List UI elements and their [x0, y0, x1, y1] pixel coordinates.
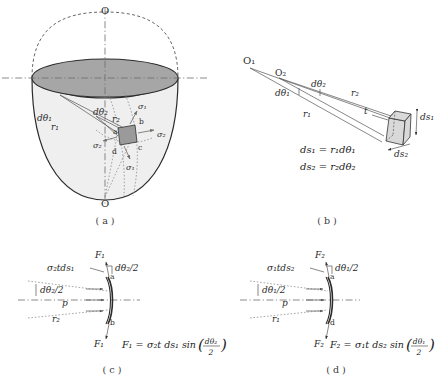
d-label-F-bottom: F₂ [313, 339, 324, 349]
d-label-corner-a: a [330, 272, 335, 281]
label-sigma1-lower: σ₁ [126, 163, 135, 172]
block-front-face [386, 118, 405, 145]
c-force-arrow-bottom [106, 324, 109, 339]
c-label-F-bottom: F₁ [93, 339, 104, 349]
axis-bottom-label: O [101, 198, 109, 209]
d-label-corner-d: d [330, 318, 335, 327]
axis-top-label: O [101, 5, 109, 16]
label-corner-a: a [113, 127, 118, 136]
label-r1: r₁ [51, 122, 59, 132]
c-equation-paren-close: ) [220, 336, 227, 354]
ray-O2-top [279, 78, 391, 116]
c-label-stress-force: σ₂tds₁ [47, 263, 74, 273]
label-corner-b: b [139, 117, 144, 126]
ds1-dimension-line [416, 112, 417, 135]
figure-canvas: O O dθ₁ r₁ dθ₂ r₂ σ₁ σ₁ σ₂ σ₂ a b c d ( … [0, 0, 439, 381]
d-force-arrow-bottom [326, 324, 329, 339]
c-equation-rhs: σ₂t ds₁ sin [147, 339, 196, 350]
c-label-F-top: F₁ [94, 250, 105, 260]
c-label-corner-a: a [110, 272, 115, 281]
label-O1: O₁ [243, 55, 255, 66]
surface-element [118, 125, 137, 145]
label-b-dtheta2: dθ₂ [311, 79, 326, 89]
label-b-dtheta1: dθ₁ [275, 88, 290, 98]
panel-c-label: ( c ) [103, 364, 122, 375]
panel-b-label: ( b ) [317, 215, 337, 226]
ray-O2-bottom [279, 78, 384, 136]
t-thickness-leader [372, 115, 388, 120]
d-label-half-angle-left: dθ₁/2 [262, 285, 286, 295]
label-b-ds1: ds₁ [420, 112, 434, 122]
equation-ds2: ds₂ = r₂dθ₂ [300, 161, 356, 172]
c-label-radius: r₂ [52, 314, 60, 324]
d-equation-frac-den: 2 [416, 348, 422, 357]
c-equation: F₁ = σ₂t ds₁ sin ( dθ₂ 2 ) [121, 336, 227, 357]
label-O2: O₂ [275, 68, 286, 78]
d-stress-leader [310, 268, 324, 272]
figure-root: O O dθ₁ r₁ dθ₂ r₂ σ₁ σ₁ σ₂ σ₂ a b c d ( … [0, 0, 439, 381]
c-equation-lhs: F₁ = [121, 339, 143, 350]
label-sigma2-right: σ₂ [157, 130, 166, 139]
d-force-arrow-top [326, 262, 329, 277]
d-equation: F₂ = σ₁t ds₂ sin ( dθ₁ 2 ) [329, 336, 435, 357]
panel-a-label: ( a ) [95, 215, 114, 226]
c-equation-frac-num: dθ₂ [205, 337, 217, 346]
label-b-r2: r₂ [351, 88, 359, 98]
label-dtheta1: dθ₁ [37, 113, 52, 123]
panel-d-label: ( d ) [326, 364, 346, 375]
c-stress-leader [90, 268, 104, 272]
d-equation-paren-close: ) [428, 336, 435, 354]
label-r2: r₂ [112, 114, 120, 124]
c-force-arrow-top [106, 262, 109, 277]
panel-a: O O dθ₁ r₁ dθ₂ r₂ σ₁ σ₁ σ₂ σ₂ a b c d ( … [2, 5, 208, 226]
equation-ds1: ds₁ = r₁dθ₁ [300, 144, 356, 155]
label-dtheta2: dθ₂ [93, 107, 108, 117]
d-equation-frac-num: dθ₁ [413, 337, 425, 346]
d-label-radius: r₁ [272, 314, 280, 324]
label-sigma1-upper: σ₁ [138, 102, 147, 111]
c-label-half-angle-top: dθ₂/2 [115, 263, 139, 273]
label-b-r1: r₁ [303, 109, 311, 119]
d-equation-lhs: F₂ = [329, 339, 351, 350]
label-corner-c: c [138, 143, 142, 152]
panel-d: F₂ σ₁tds₂ dθ₁/2 dθ₁/2 p r₁ a d F₂ F₂ = σ… [240, 250, 435, 375]
c-label-half-angle-left: dθ₂/2 [40, 285, 64, 295]
label-b-ds2: ds₂ [394, 149, 408, 159]
label-sigma2-left: σ₂ [93, 141, 102, 150]
d-equation-rhs: σ₁t ds₂ sin [355, 339, 404, 350]
c-equation-frac-den: 2 [208, 348, 214, 357]
d-label-pressure: p [282, 298, 288, 308]
d-label-F-top: F₂ [314, 250, 325, 260]
panel-b: O₁ O₂ dθ₂ dθ₁ r₂ r₁ t ds₁ ds₂ ds₁ = r₁dθ… [243, 55, 434, 226]
panel-c: F₁ σ₂tds₁ dθ₂/2 dθ₂/2 p r₂ a b F₁ F₁ = σ… [18, 250, 227, 375]
d-label-half-angle-top: dθ₁/2 [335, 263, 359, 273]
label-corner-d: d [112, 147, 117, 156]
c-label-corner-b: b [110, 318, 115, 327]
c-label-pressure: p [62, 298, 68, 308]
d-label-stress-force: σ₁tds₂ [267, 263, 295, 273]
label-b-t: t [364, 106, 368, 116]
